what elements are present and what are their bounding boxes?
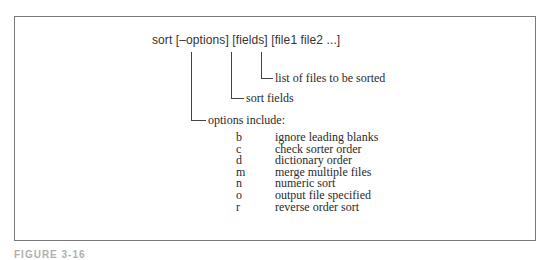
figure-caption: FIGURE 3-16 [14,249,86,260]
files-connector-horizontal [261,78,273,79]
files-connector-vertical [261,52,262,79]
options-callout-label: options include: [208,113,285,128]
fields-callout-label: sort fields [246,91,294,106]
options-connector-horizontal [191,120,206,121]
fields-connector-vertical [231,52,232,99]
options-connector-vertical [191,52,192,121]
option-flag: r [236,201,240,213]
fields-connector-horizontal [231,98,244,99]
sort-command-syntax: sort [–options] [fields] [file1 file2 ..… [152,33,340,47]
files-callout-label: list of files to be sorted [275,71,385,86]
option-description: reverse order sort [275,201,359,213]
